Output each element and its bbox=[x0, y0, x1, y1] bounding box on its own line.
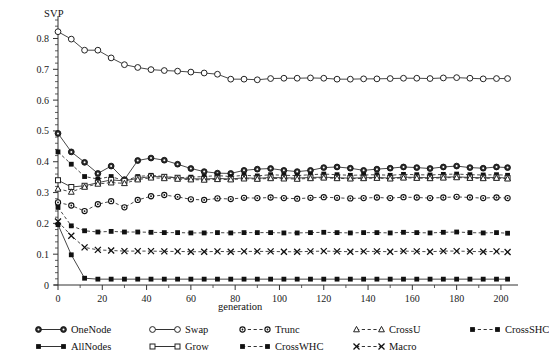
legend-symbol bbox=[148, 323, 182, 336]
x-tick-label: 160 bbox=[405, 293, 420, 304]
marker-dot bbox=[124, 206, 126, 208]
marker-open-circle bbox=[161, 68, 167, 74]
marker-filled-square bbox=[428, 231, 433, 236]
marker-open-circle bbox=[321, 75, 327, 81]
marker-filled-square bbox=[454, 230, 459, 235]
marker-filled-square bbox=[95, 230, 100, 235]
marker-dot bbox=[270, 197, 272, 199]
marker-dot bbox=[137, 199, 139, 201]
marker-dot bbox=[150, 195, 152, 197]
marker-open-square bbox=[175, 344, 180, 349]
marker-filled-square bbox=[109, 277, 114, 282]
marker-filled-square bbox=[281, 231, 286, 236]
marker-filled-square bbox=[470, 327, 475, 332]
y-tick-label: 0.6 bbox=[37, 95, 50, 106]
marker-filled-square bbox=[414, 277, 419, 282]
marker-filled-square bbox=[468, 277, 473, 282]
marker-open-circle bbox=[334, 76, 340, 82]
marker-dot bbox=[496, 197, 498, 199]
marker-filled-square bbox=[135, 277, 140, 282]
marker-filled-square bbox=[388, 277, 393, 282]
legend-item-grow[interactable]: Grow bbox=[148, 338, 209, 355]
marker-filled-square bbox=[61, 344, 66, 349]
marker-dot bbox=[243, 197, 245, 199]
marker-dot bbox=[163, 194, 165, 196]
marker-filled-square bbox=[215, 277, 220, 282]
marker-open-circle bbox=[401, 75, 407, 81]
marker-filled-square bbox=[228, 277, 233, 282]
legend-item-allnodes[interactable]: AllNodes bbox=[34, 338, 111, 355]
legend-symbol bbox=[352, 340, 386, 353]
marker-dot bbox=[469, 167, 471, 169]
marker-filled-square bbox=[308, 277, 313, 282]
legend-item-trunc[interactable]: Trunc bbox=[238, 321, 300, 338]
legend-item-swap[interactable]: Swap bbox=[148, 321, 208, 338]
marker-filled-square bbox=[375, 230, 380, 235]
marker-filled-square bbox=[56, 222, 61, 227]
marker-dot bbox=[495, 166, 497, 168]
marker-dot bbox=[456, 196, 458, 198]
marker-dot bbox=[416, 167, 418, 169]
marker-dot bbox=[507, 167, 509, 169]
marker-open-circle bbox=[454, 75, 460, 81]
marker-filled-square bbox=[268, 277, 273, 282]
x-tick-label: 60 bbox=[186, 293, 196, 304]
legend-item-crossu[interactable]: CrossU bbox=[352, 321, 421, 338]
marker-open-circle bbox=[175, 327, 181, 333]
marker-dot bbox=[469, 197, 471, 199]
marker-filled-square bbox=[240, 344, 245, 349]
marker-dot bbox=[363, 197, 365, 199]
marker-filled-square bbox=[135, 230, 140, 235]
marker-open-circle bbox=[188, 69, 194, 75]
marker-dot bbox=[163, 159, 165, 161]
marker-filled-square bbox=[481, 231, 486, 236]
legend-item-crossshc[interactable]: CrossSHC bbox=[468, 321, 549, 338]
marker-dot bbox=[416, 197, 418, 199]
legend-item-label: CrossSHC bbox=[505, 323, 549, 336]
marker-open-circle bbox=[241, 76, 247, 82]
marker-open-circle bbox=[148, 67, 154, 73]
legend-item-label: Trunc bbox=[275, 323, 300, 336]
y-tick-label: 0.4 bbox=[37, 156, 50, 167]
marker-filled-square bbox=[441, 230, 446, 235]
marker-dot bbox=[323, 167, 325, 169]
marker-filled-square bbox=[202, 277, 207, 282]
marker-dot bbox=[177, 163, 179, 165]
marker-dot bbox=[363, 169, 365, 171]
marker-dot bbox=[336, 197, 338, 199]
marker-filled-square bbox=[495, 327, 500, 332]
marker-filled-square bbox=[441, 277, 446, 282]
marker-filled-square bbox=[175, 230, 180, 235]
marker-filled-square bbox=[335, 230, 340, 235]
marker-dot bbox=[97, 172, 99, 174]
marker-dot bbox=[242, 329, 244, 331]
marker-filled-square bbox=[505, 231, 510, 236]
x-tick-label: 100 bbox=[272, 293, 287, 304]
marker-dot bbox=[336, 166, 338, 168]
marker-open-circle bbox=[467, 75, 473, 81]
marker-open-circle bbox=[387, 76, 393, 82]
marker-dot bbox=[150, 157, 152, 159]
marker-dot bbox=[256, 168, 258, 170]
marker-filled-square bbox=[228, 231, 233, 236]
marker-filled-square bbox=[162, 230, 167, 235]
marker-filled-square bbox=[265, 344, 270, 349]
marker-dot bbox=[63, 329, 65, 331]
legend-symbol bbox=[238, 340, 272, 353]
marker-dot bbox=[429, 168, 431, 170]
marker-open-circle bbox=[361, 76, 367, 82]
marker-x bbox=[68, 233, 74, 239]
x-axis-label: generation bbox=[218, 301, 262, 312]
marker-filled-square bbox=[202, 231, 207, 236]
marker-open-square bbox=[150, 344, 155, 349]
marker-dot bbox=[376, 168, 378, 170]
marker-filled-square bbox=[82, 228, 87, 233]
marker-dot bbox=[283, 197, 285, 199]
marker-dot bbox=[230, 198, 232, 200]
marker-filled-square bbox=[242, 277, 247, 282]
legend-item-crosswhc[interactable]: CrossWHC bbox=[238, 338, 323, 355]
legend-item-macro[interactable]: Macro bbox=[352, 338, 416, 355]
series-line bbox=[58, 32, 508, 80]
marker-filled-square bbox=[505, 277, 510, 282]
legend-item-onenode[interactable]: OneNode bbox=[34, 321, 111, 338]
